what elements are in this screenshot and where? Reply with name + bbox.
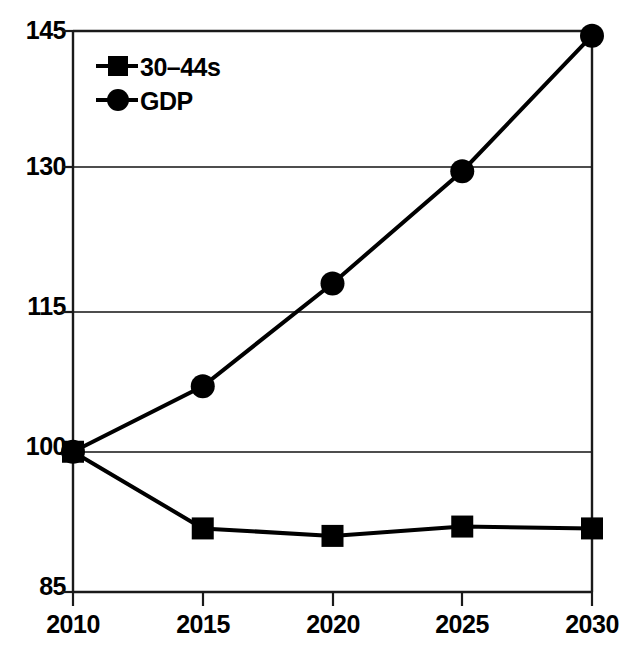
y-axis-ticks [62, 31, 73, 592]
series-30-44s [62, 441, 603, 547]
legend-item-gdp: GDP [96, 87, 193, 115]
data-point-marker-circle [61, 440, 85, 464]
data-point-marker-circle [450, 159, 474, 183]
series-line [73, 452, 592, 536]
legend-item-30-44s: 30–44s [96, 53, 220, 81]
legend: 30–44s GDP [96, 53, 220, 115]
legend-label-30-44s: 30–44s [140, 53, 220, 81]
data-point-marker-circle [321, 271, 345, 295]
legend-label-gdp: GDP [140, 87, 193, 115]
data-point-marker-circle [191, 374, 215, 398]
data-point-marker-square [581, 517, 603, 539]
legend-marker-circle-icon [107, 89, 129, 111]
chart-container: 145 130 115 100 85 2010 2015 2020 2025 2… [0, 0, 636, 649]
gridlines [73, 167, 592, 452]
data-point-marker-square [192, 517, 214, 539]
data-point-marker-square [322, 525, 344, 547]
data-point-marker-square [451, 516, 473, 538]
plot-area: 30–44s GDP [0, 0, 636, 649]
data-point-marker-circle [580, 24, 604, 48]
x-axis-ticks [73, 592, 592, 606]
legend-marker-square-icon [108, 56, 128, 76]
